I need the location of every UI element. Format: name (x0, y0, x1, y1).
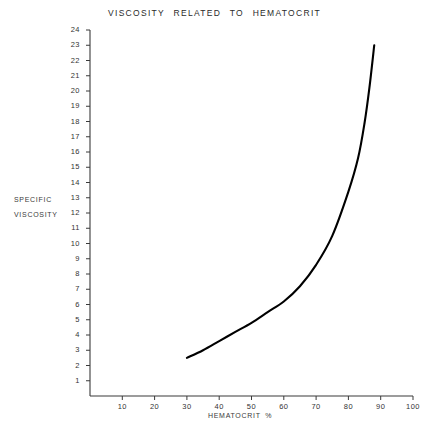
x-axis-label: HEMATOCRIT % (208, 412, 272, 419)
y-tick-label: 8 (64, 269, 80, 278)
y-tick-label: 24 (64, 25, 80, 34)
chart-figure: VISCOSITY RELATED TO HEMATOCRIT SPECIFIC… (0, 0, 427, 435)
y-tick-label: 10 (64, 239, 80, 248)
y-tick-label: 12 (64, 208, 80, 217)
y-tick-label: 11 (64, 223, 80, 232)
y-tick-label: 16 (64, 147, 80, 156)
x-tick-label: 10 (112, 402, 132, 411)
chart-title: VISCOSITY RELATED TO HEMATOCRIT (108, 8, 321, 18)
y-tick-label: 20 (64, 86, 80, 95)
x-tick-label: 90 (371, 402, 391, 411)
x-tick-label: 40 (209, 402, 229, 411)
y-tick-label: 4 (64, 330, 80, 339)
y-tick-label: 5 (64, 315, 80, 324)
y-tick-marks (86, 30, 90, 381)
y-tick-label: 18 (64, 117, 80, 126)
y-tick-label: 9 (64, 254, 80, 263)
y-tick-label: 19 (64, 101, 80, 110)
y-tick-label: 15 (64, 162, 80, 171)
x-tick-marks (122, 396, 413, 400)
y-tick-label: 17 (64, 132, 80, 141)
x-tick-label: 80 (338, 402, 358, 411)
y-tick-label: 22 (64, 56, 80, 65)
x-tick-label: 70 (306, 402, 326, 411)
x-tick-label: 20 (145, 402, 165, 411)
y-tick-label: 7 (64, 284, 80, 293)
data-series-line (187, 45, 374, 358)
x-tick-label: 60 (274, 402, 294, 411)
axes-group (90, 30, 413, 396)
x-tick-label: 100 (403, 402, 423, 411)
x-tick-label: 50 (242, 402, 262, 411)
x-tick-label: 30 (177, 402, 197, 411)
y-tick-label: 23 (64, 40, 80, 49)
y-tick-label: 3 (64, 345, 80, 354)
y-tick-label: 2 (64, 361, 80, 370)
y-tick-label: 1 (64, 376, 80, 385)
y-tick-label: 21 (64, 71, 80, 80)
y-tick-label: 14 (64, 178, 80, 187)
y-tick-label: 6 (64, 300, 80, 309)
y-tick-label: 13 (64, 193, 80, 202)
